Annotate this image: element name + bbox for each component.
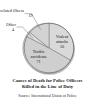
pie-value-violent-attacks: 50 xyxy=(60,44,64,49)
caption-line-2: Killed in the Line of Duty xyxy=(0,84,95,90)
source-line-1: Source: International Union of Police xyxy=(0,94,95,99)
pie-value-other: 4 xyxy=(12,27,14,32)
pie-value-job-related-illness: 19 xyxy=(28,13,32,18)
pie-chart-figure: Job-related illness 19 Other 4 Violent a… xyxy=(0,0,95,103)
pie-value-traffic-accidents: 71 xyxy=(36,59,40,64)
caption-line-1: Causes of Death for Police Officers xyxy=(0,78,95,84)
pie-label-job-related-illness: Job-related illness xyxy=(0,8,24,13)
chart-source: Source: International Union of Police xyxy=(0,94,95,99)
pie-chart-svg: Job-related illness 19 Other 4 Violent a… xyxy=(0,0,95,78)
chart-caption: Causes of Death for Police Officers Kill… xyxy=(0,78,95,89)
chart-plot-area: Job-related illness 19 Other 4 Violent a… xyxy=(0,0,95,78)
